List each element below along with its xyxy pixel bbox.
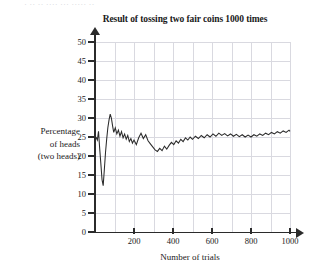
- series-polyline: [96, 114, 290, 185]
- data-series-line: [0, 0, 319, 272]
- x-axis-label: Number of trials: [110, 252, 270, 262]
- chart-figure: · ·· ·· ···· ··· ····· ·· Result of toss…: [0, 0, 319, 272]
